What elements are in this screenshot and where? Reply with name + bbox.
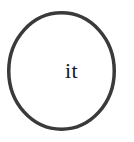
node-label: it xyxy=(0,60,134,82)
diagram-canvas: it xyxy=(0,0,134,142)
